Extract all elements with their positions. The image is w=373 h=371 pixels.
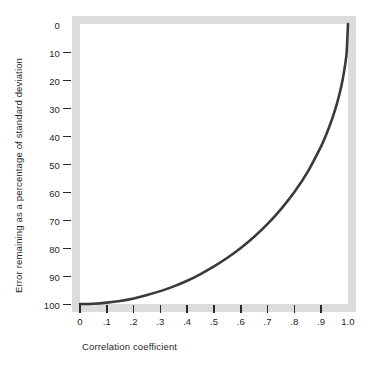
x-tick-label: .1	[92, 317, 122, 327]
x-tick-mark	[320, 305, 322, 313]
y-tick-mark	[63, 136, 71, 138]
x-tick-mark	[294, 305, 296, 313]
y-tick-label: 60	[30, 189, 60, 199]
y-tick-label: 0	[30, 21, 60, 31]
y-tick-mark	[63, 192, 71, 194]
x-tick-label: .6	[226, 317, 256, 327]
x-tick-label: .2	[119, 317, 149, 327]
x-tick-mark	[240, 305, 242, 313]
x-tick-label: .9	[306, 317, 336, 327]
y-tick-mark	[63, 80, 71, 82]
y-tick-label: 80	[30, 245, 60, 255]
y-tick-mark	[63, 276, 71, 278]
x-tick-mark	[133, 305, 135, 313]
x-tick-label: 1.0	[333, 317, 363, 327]
x-tick-label: .3	[145, 317, 175, 327]
y-tick-mark	[63, 248, 71, 250]
plot-area	[80, 24, 348, 304]
x-tick-label: .7	[253, 317, 283, 327]
y-tick-mark	[63, 220, 71, 222]
y-tick-label: 50	[30, 161, 60, 171]
data-curve-path	[80, 24, 348, 304]
x-tick-mark	[213, 305, 215, 313]
x-tick-mark	[267, 305, 269, 313]
x-tick-mark	[79, 305, 81, 313]
y-tick-label: 100	[30, 301, 60, 311]
y-tick-label: 30	[30, 105, 60, 115]
y-tick-label: 20	[30, 77, 60, 87]
y-tick-mark	[63, 108, 71, 110]
x-tick-label: .4	[172, 317, 202, 327]
x-tick-label: .8	[279, 317, 309, 327]
y-tick-label: 90	[30, 273, 60, 283]
curve-svg	[80, 24, 348, 304]
y-axis-title-text: Error remaining as a percentage of stand…	[14, 57, 25, 292]
y-axis-title: Error remaining as a percentage of stand…	[11, 50, 27, 300]
chart-figure: 0 10 20 30 40 50 60 70 80 90 100 0 .1 .2…	[0, 0, 373, 371]
y-tick-label: 40	[30, 133, 60, 143]
x-tick-mark	[106, 305, 108, 313]
x-tick-mark	[186, 305, 188, 313]
y-tick-label: 10	[30, 49, 60, 59]
y-axis-tick-labels: 0 10 20 30 40 50 60 70 80 90 100	[28, 0, 60, 371]
y-tick-mark	[63, 304, 71, 306]
x-tick-label: .5	[199, 317, 229, 327]
y-tick-mark	[63, 164, 71, 166]
x-tick-mark	[160, 305, 162, 313]
y-tick-label: 70	[30, 217, 60, 227]
x-tick-label: 0	[65, 317, 95, 327]
x-axis-title: Correlation coefficient	[82, 341, 177, 352]
y-tick-mark	[63, 52, 71, 54]
